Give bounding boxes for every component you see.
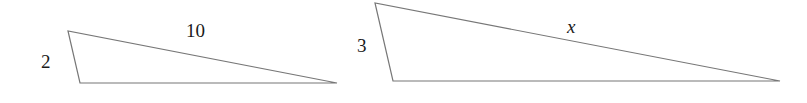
right-triangle-hypotenuse-label: x [567, 17, 575, 36]
right-triangle-short-side-label: 3 [357, 36, 367, 55]
triangles-drawing [0, 0, 807, 103]
left-triangle-hypotenuse-label: 10 [186, 21, 205, 40]
right-triangle-shape [375, 3, 780, 81]
left-triangle-short-side-label: 2 [41, 52, 51, 71]
similar-triangles-figure: 2 10 3 x [0, 0, 807, 103]
